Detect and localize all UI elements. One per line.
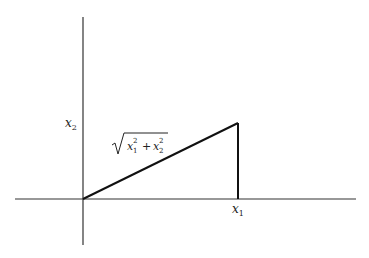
x1-axis-label: x1 (232, 202, 244, 218)
svg-text:2: 2 (159, 137, 163, 145)
hypotenuse-label: x 2 1 + x 2 2 (112, 133, 168, 155)
svg-text:2: 2 (159, 147, 163, 155)
hypotenuse-line (83, 123, 238, 199)
diagram-canvas: x2 x1 x 2 1 + x 2 2 (0, 0, 369, 258)
svg-text:2: 2 (133, 137, 137, 145)
svg-text:+: + (142, 140, 151, 153)
x2-axis-label: x2 (65, 116, 77, 132)
diagram-svg: x2 x1 x 2 1 + x 2 2 (0, 0, 369, 258)
svg-text:1: 1 (133, 147, 137, 155)
